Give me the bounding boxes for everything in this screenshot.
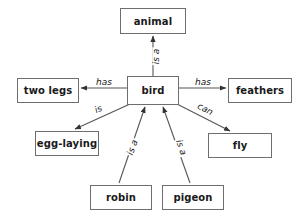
node-label: pigeon (173, 192, 212, 203)
node-label: feathers (236, 85, 284, 96)
edge-label-bird-has-twolegs: has (95, 78, 113, 87)
node-label: animal (134, 16, 173, 27)
node-robin[interactable]: robin (90, 185, 152, 210)
node-fly[interactable]: fly (208, 133, 272, 158)
node-label: bird (141, 85, 164, 96)
node-label: robin (106, 192, 136, 203)
node-label: fly (233, 140, 248, 151)
edge-label-bird-has-feathers: has (194, 78, 212, 87)
node-label: egg-laying (37, 138, 97, 149)
semantic-network-diagram: animaltwo legsbirdfeathersegg-layingflyr… (0, 0, 303, 221)
node-feathers[interactable]: feathers (228, 78, 292, 103)
node-bird[interactable]: bird (127, 76, 179, 105)
node-animal[interactable]: animal (120, 8, 186, 34)
edge-label-bird-isa-animal: is a (152, 48, 161, 66)
node-pigeon[interactable]: pigeon (162, 185, 224, 210)
node-two-legs[interactable]: two legs (17, 78, 79, 103)
node-label: two legs (24, 85, 73, 96)
node-egg-laying[interactable]: egg-laying (35, 131, 99, 156)
